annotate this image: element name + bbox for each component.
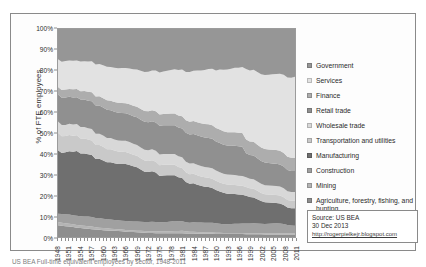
x-axis-tick-mark (129, 238, 130, 241)
x-axis-tick-mark (72, 238, 73, 241)
source-note-box: Source: US BEA30 Dec 2013http://rogerpie… (307, 210, 418, 243)
x-axis-tick-mark (250, 238, 251, 241)
y-axis-tick-label: 40% (40, 151, 53, 158)
x-axis-tick-mark (144, 238, 145, 241)
x-axis-tick-mark (281, 238, 282, 241)
y-axis-tick-label: 50% (40, 130, 53, 137)
x-axis-tick-mark (273, 238, 274, 241)
y-axis-tick-label: 60% (40, 109, 53, 116)
x-axis-tick-mark (277, 238, 278, 241)
legend-swatch-icon (307, 93, 312, 98)
y-axis-tick-label: 90% (40, 46, 53, 53)
plot-area (57, 28, 296, 238)
y-axis-tick-mark (54, 196, 57, 197)
x-axis-tick-mark (220, 238, 221, 241)
figure-caption: US BEA Full-time equivalent employees by… (12, 258, 416, 267)
legend-item-label: Finance (316, 92, 340, 100)
x-axis-tick-mark (266, 238, 267, 241)
x-axis-tick-mark (95, 238, 96, 241)
y-axis-tick-mark (54, 91, 57, 92)
legend-item[interactable]: Services (307, 77, 419, 85)
x-axis-tick-mark (182, 238, 183, 241)
x-axis-tick-mark (140, 238, 141, 241)
legend-swatch-icon (307, 78, 312, 83)
x-axis-tick-mark (194, 238, 195, 241)
x-axis-tick-mark (239, 238, 240, 241)
x-axis-tick-mark (232, 238, 233, 241)
y-axis-tick-label: 10% (40, 214, 53, 221)
x-axis-tick-mark (156, 238, 157, 241)
y-axis-tick-mark (54, 112, 57, 113)
legend-item[interactable]: Transportation and utilities (307, 137, 419, 145)
x-axis-tick-mark (76, 238, 77, 241)
y-axis-tick-mark (54, 217, 57, 218)
legend-swatch-icon (307, 138, 312, 143)
x-axis-tick-mark (228, 238, 229, 241)
x-axis-tick-mark (152, 238, 153, 241)
x-axis-tick-mark (269, 238, 270, 241)
x-axis-tick-mark (80, 238, 81, 241)
x-axis-tick-mark (213, 238, 214, 241)
legend-item[interactable]: Retail trade (307, 107, 419, 115)
y-axis-tick-label: 80% (40, 67, 53, 74)
legend-item[interactable]: Manufacturing (307, 152, 419, 160)
y-axis-title: % of FTE employees (34, 32, 43, 182)
legend-swatch-icon (307, 63, 312, 68)
x-axis-tick-mark (159, 238, 160, 241)
legend-swatch-icon (307, 108, 312, 113)
x-axis-tick-mark (61, 238, 62, 241)
stacked-area-chart: % of FTE employees GovernmentServicesFin… (11, 14, 415, 250)
y-axis-tick-label: 20% (40, 193, 53, 200)
legend-swatch-icon (307, 153, 312, 158)
x-axis-tick-mark (296, 238, 297, 241)
y-axis-tick-label: 100% (36, 25, 53, 32)
y-axis-tick-mark (54, 154, 57, 155)
x-axis-tick-mark (247, 238, 248, 241)
legend-item[interactable]: Mining (307, 182, 419, 190)
legend-item[interactable]: Construction (307, 167, 419, 175)
x-axis-tick-mark (65, 238, 66, 241)
legend-item-label: Government (316, 62, 353, 70)
x-axis-tick-mark (118, 238, 119, 241)
x-axis-tick-mark (171, 238, 172, 241)
chart-legend: GovernmentServicesFinanceRetail tradeWho… (307, 62, 419, 220)
x-axis-tick-mark (209, 238, 210, 241)
y-axis-tick-label: 70% (40, 88, 53, 95)
x-axis-tick-mark (125, 238, 126, 241)
x-axis-tick-mark (91, 238, 92, 241)
source-line: Source: US BEA (312, 214, 413, 222)
source-line: 30 Dec 2013 (312, 222, 413, 230)
x-axis-tick-mark (103, 238, 104, 241)
legend-item[interactable]: Finance (307, 92, 419, 100)
y-axis-tick-mark (54, 175, 57, 176)
legend-item-label: Transportation and utilities (316, 137, 395, 145)
x-axis-tick-mark (57, 238, 58, 241)
legend-swatch-icon (307, 168, 312, 173)
x-axis-tick-mark (235, 238, 236, 241)
y-axis-tick-label: 0% (43, 235, 53, 242)
x-axis-tick-mark (224, 238, 225, 241)
x-axis-tick-mark (114, 238, 115, 241)
x-axis-tick-mark (84, 238, 85, 241)
legend-item-label: Services (316, 77, 342, 85)
x-axis-tick-mark (205, 238, 206, 241)
y-axis-tick-label: 30% (40, 172, 53, 179)
legend-item[interactable]: Wholesale trade (307, 122, 419, 130)
x-axis-tick-mark (292, 238, 293, 241)
source-url[interactable]: http://rogerpielkejr.blogspot.com (312, 230, 413, 238)
legend-swatch-icon (307, 183, 312, 188)
x-axis-tick-mark (288, 238, 289, 241)
x-axis-tick-mark (137, 238, 138, 241)
x-axis-tick-mark (243, 238, 244, 241)
x-axis-tick-mark (201, 238, 202, 241)
x-axis-tick-mark (163, 238, 164, 241)
x-axis-tick-mark (87, 238, 88, 241)
x-axis-tick-mark (254, 238, 255, 241)
legend-item[interactable]: Government (307, 62, 419, 70)
legend-swatch-icon (307, 198, 312, 203)
x-axis-tick-mark (99, 238, 100, 241)
y-axis-tick-mark (54, 28, 57, 29)
x-axis-tick-mark (110, 238, 111, 241)
figure-frame: % of FTE employees GovernmentServicesFin… (10, 13, 416, 251)
y-axis-tick-mark (54, 70, 57, 71)
